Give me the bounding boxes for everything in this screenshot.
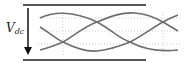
curve-bottom-rising (40, 13, 178, 50)
waveform-curves (40, 13, 178, 51)
arrow-down-icon (24, 8, 32, 55)
vdc-symbol: V (6, 21, 15, 35)
diagram-canvas (0, 0, 190, 63)
eye-diagram: Vdc (0, 0, 190, 63)
vdc-label: Vdc (6, 22, 24, 36)
curve-low-to-high (40, 15, 178, 51)
vdc-subscript: dc (15, 27, 25, 36)
